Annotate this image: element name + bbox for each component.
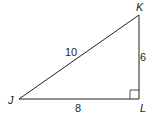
- side-label-kl: 6: [140, 51, 146, 63]
- side-label-jl: 8: [75, 102, 81, 114]
- vertex-label-l: L: [140, 102, 146, 114]
- triangle-diagram: K J L 10 8 6: [0, 0, 154, 118]
- side-label-jk: 10: [65, 46, 77, 58]
- triangle-jkl: [19, 15, 139, 99]
- right-angle-marker: [130, 90, 139, 99]
- vertex-label-j: J: [7, 94, 14, 106]
- vertex-label-k: K: [136, 1, 144, 13]
